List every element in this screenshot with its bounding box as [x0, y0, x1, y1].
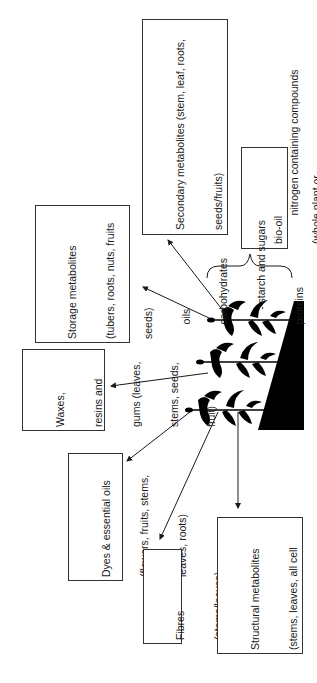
dyes-essential-oils-box: Dyes & essential oils (flowers, fruits, …: [68, 453, 123, 581]
structural-metabolites-text: Structural metabolites (stems, leaves, a…: [224, 547, 317, 650]
waxes-resins-gums-text: Waxes, resins and gums (leaves, stems, s…: [29, 362, 243, 427]
storage-metabolites-box: Storage metabolites (tubers, roots, nuts…: [35, 205, 130, 343]
structural-metabolites-box: Structural metabolites (stems, leaves, a…: [217, 517, 303, 654]
storage-metabolites-text: Storage metabolites (tubers, roots, nuts…: [41, 220, 317, 339]
secondary-metabolites-box: Secondary metabolites (stem, leaf, roots…: [142, 19, 228, 235]
fibres-box: Fibres (stems/leaves): [143, 549, 182, 644]
waxes-resins-gums-box: Waxes, resins and gums (leaves, stems, s…: [22, 349, 105, 431]
